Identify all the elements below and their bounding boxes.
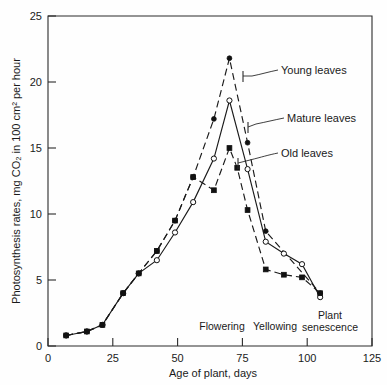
data-point [263,239,268,244]
x-axis-title: Age of plant, days [169,367,258,379]
x-axis-ticks [48,338,372,346]
y-axis-tick-labels: 0 5 10 15 20 25 [30,10,42,352]
data-point [211,156,216,161]
x-tick-125: 125 [363,352,381,364]
annotation-plant: Plant [318,309,342,321]
y-axis-ticks [48,16,56,346]
series-old-leaves [64,146,323,338]
annotation-yellowing: Yellowing [253,320,297,332]
x-tick-100: 100 [298,352,316,364]
y-tick-15: 15 [30,142,42,154]
data-series-layer [64,56,323,338]
data-point [191,175,196,180]
data-point [227,56,232,61]
data-point [281,251,286,256]
data-point [154,258,159,263]
data-point [245,140,250,145]
x-tick-75: 75 [236,352,248,364]
x-axis-tick-labels: 0 25 50 75 100 125 [45,352,381,364]
data-point [245,167,250,172]
data-point [245,208,250,213]
series-label-old-leaves: Old leaves [281,147,333,159]
data-point [191,200,196,205]
data-point [227,98,232,103]
y-tick-25: 25 [30,10,42,22]
series-label-mature-leaves: Mature leaves [287,112,357,124]
data-point [172,230,177,235]
data-point [227,146,232,151]
data-point [235,165,240,170]
data-point [211,188,216,193]
y-tick-5: 5 [36,274,42,286]
data-point [299,262,304,267]
chart-svg: 0 5 10 15 20 25 0 25 50 75 100 125 Age o… [0,0,387,385]
annotation-flowering: Flowering [199,320,245,332]
data-point [173,218,178,223]
x-tick-0: 0 [45,352,51,364]
data-point [281,272,286,277]
data-point [318,291,323,296]
x-tick-50: 50 [171,352,183,364]
series-leader-lines [238,70,284,169]
data-point [211,117,216,122]
data-point [84,329,89,334]
y-tick-20: 20 [30,76,42,88]
data-point [100,322,105,327]
series-young-leaves [64,56,323,338]
data-point [121,291,126,296]
y-tick-10: 10 [30,208,42,220]
y-tick-0: 0 [36,340,42,352]
annotation-senescence: senescence [302,321,358,333]
y-axis-title: Photosynthesis rates, mg CO₂ in 100 cm² … [10,58,22,304]
photosynthesis-rate-chart: 0 5 10 15 20 25 0 25 50 75 100 125 Age o… [0,0,387,385]
series-mature-leaves [64,98,323,338]
data-point [154,249,159,254]
data-point [263,267,268,272]
data-point [64,333,69,338]
series-label-young-leaves: Young leaves [281,64,347,76]
data-point [300,275,305,280]
series-line [66,100,320,335]
data-point [136,271,141,276]
series-line [66,58,320,335]
x-tick-25: 25 [107,352,119,364]
